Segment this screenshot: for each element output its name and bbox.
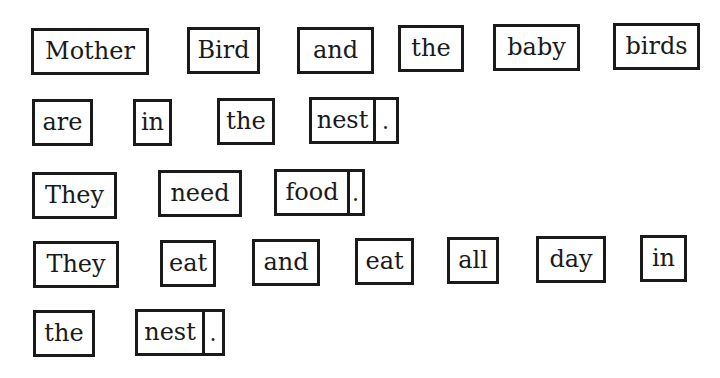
period-card[interactable]: .: [347, 169, 365, 216]
word-card[interactable]: all: [447, 237, 499, 284]
word-card[interactable]: Bird: [187, 27, 260, 74]
word-card[interactable]: in: [640, 235, 687, 282]
period-card[interactable]: .: [373, 97, 399, 144]
word-card[interactable]: nest: [135, 309, 205, 356]
word-card[interactable]: eat: [160, 240, 216, 287]
word-card[interactable]: are: [32, 99, 93, 146]
word-card[interactable]: eat: [355, 238, 414, 285]
word-card[interactable]: food: [274, 169, 350, 216]
word-card[interactable]: day: [536, 236, 606, 283]
word-card[interactable]: and: [297, 27, 374, 74]
word-card[interactable]: in: [133, 99, 172, 146]
word-card[interactable]: They: [33, 241, 119, 288]
period-card[interactable]: .: [202, 309, 225, 356]
word-card[interactable]: birds: [613, 23, 700, 70]
word-card[interactable]: and: [252, 239, 320, 286]
word-card[interactable]: baby: [493, 24, 580, 71]
word-card[interactable]: nest: [309, 97, 376, 144]
word-card[interactable]: Mother: [31, 28, 149, 75]
word-card[interactable]: need: [158, 170, 242, 217]
word-card[interactable]: the: [398, 25, 464, 72]
word-card[interactable]: They: [32, 172, 117, 219]
word-card[interactable]: the: [217, 98, 275, 145]
word-card[interactable]: the: [33, 310, 95, 357]
